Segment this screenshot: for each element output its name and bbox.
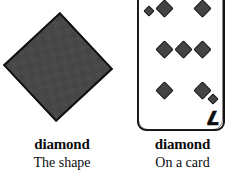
diamond-pip-icon xyxy=(174,40,192,58)
panel-diamond-shape: diamond The shape xyxy=(0,0,124,176)
shape-caption-title: diamond xyxy=(0,136,124,153)
card-caption-title: diamond xyxy=(124,136,241,153)
card-caption-subtitle: On a card xyxy=(124,155,241,171)
illustration-page: diamond The shape 7 7 diamond On a card xyxy=(0,0,241,176)
shape-caption-subtitle: The shape xyxy=(0,155,124,171)
diamond-pip-icon xyxy=(155,81,173,99)
diamond-pip-icon xyxy=(155,0,173,18)
diamond-pip-icon xyxy=(193,40,211,58)
diamond-pip-icon-corner-top xyxy=(143,5,154,16)
diamond-shape-icon xyxy=(3,12,113,122)
diamond-pip-icon xyxy=(193,0,211,18)
diamond-shape-texture xyxy=(6,15,111,120)
diamond-pip-icon-corner-bottom xyxy=(207,93,218,104)
card-rank-bottom-right: 7 xyxy=(206,108,219,127)
playing-card: 7 7 xyxy=(137,0,225,131)
diamond-pip-icon xyxy=(155,40,173,58)
panel-diamond-card: 7 7 diamond On a card xyxy=(124,0,241,176)
playing-card-stage: 7 7 xyxy=(124,0,241,134)
diamond-shape-stage xyxy=(0,0,124,134)
